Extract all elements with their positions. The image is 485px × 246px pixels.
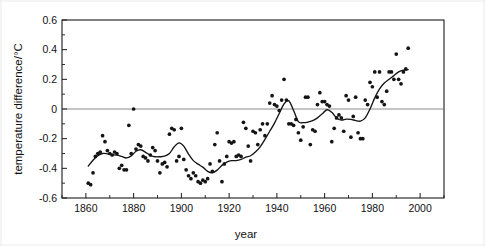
y-tick-label: -0.2 <box>39 132 57 144</box>
data-point <box>297 131 301 135</box>
data-point <box>306 95 310 99</box>
x-tick-label: 1880 <box>122 202 146 214</box>
data-point <box>244 126 248 130</box>
data-point <box>91 171 95 175</box>
data-point <box>189 177 193 181</box>
data-point <box>406 46 410 50</box>
data-point <box>168 132 172 136</box>
data-point <box>132 107 136 111</box>
data-point <box>337 113 341 117</box>
y-axis-ticks <box>62 20 67 198</box>
data-point <box>106 149 110 153</box>
data-point <box>206 177 210 181</box>
x-tick-label: 1860 <box>74 202 98 214</box>
data-point <box>361 137 365 141</box>
data-point <box>239 155 243 159</box>
data-point <box>349 135 353 139</box>
data-point <box>354 95 358 99</box>
data-point <box>151 146 155 150</box>
data-point <box>153 149 157 153</box>
data-point <box>225 155 229 159</box>
data-point <box>103 140 107 144</box>
data-point <box>397 77 401 81</box>
data-point <box>184 168 188 172</box>
data-point <box>373 70 377 74</box>
data-point <box>120 164 124 168</box>
data-point <box>385 89 389 93</box>
data-point <box>182 158 186 162</box>
data-point <box>144 156 148 160</box>
data-point <box>156 159 160 163</box>
x-tick-label: 1960 <box>313 202 337 214</box>
data-point <box>382 103 386 107</box>
data-point <box>282 77 286 81</box>
y-tick-label: -0.4 <box>39 162 57 174</box>
data-point <box>254 131 258 135</box>
chart-figure: 18601880190019201940196019802000 0.60.40… <box>0 0 485 246</box>
data-point <box>356 131 360 135</box>
data-point <box>342 129 346 133</box>
data-point <box>125 168 129 172</box>
data-point <box>265 122 269 126</box>
y-tick-label: 0.6 <box>42 14 57 26</box>
x-axis-tick-labels: 18601880190019201940196019802000 <box>74 202 432 214</box>
data-point <box>117 166 121 170</box>
data-point <box>258 128 262 132</box>
data-point <box>313 129 317 133</box>
data-point <box>366 103 370 107</box>
data-point <box>139 144 143 148</box>
data-point <box>101 134 105 138</box>
data-point <box>318 91 322 95</box>
data-point <box>249 159 253 163</box>
data-point <box>301 125 305 129</box>
x-axis-ticks <box>62 193 444 198</box>
data-point <box>194 174 198 178</box>
y-axis-tick-labels: 0.60.40.20-0.2-0.4-0.6 <box>39 14 57 204</box>
smoothed-trend-curve <box>88 70 408 173</box>
data-point <box>270 94 274 98</box>
data-point <box>328 104 332 108</box>
data-point <box>158 171 162 175</box>
x-tick-label: 1980 <box>361 202 385 214</box>
data-point <box>215 131 219 135</box>
data-point <box>163 161 167 165</box>
data-point <box>246 144 250 148</box>
y-axis-title: temperature difference/°C <box>12 43 24 175</box>
data-point <box>256 143 260 147</box>
data-point <box>146 159 150 163</box>
y-tick-label: 0.2 <box>42 73 57 85</box>
data-point <box>280 98 284 102</box>
data-point <box>371 85 375 89</box>
data-point <box>232 140 236 144</box>
data-point <box>332 126 336 130</box>
temperature-anomaly-scatter-chart: 18601880190019201940196019802000 0.60.40… <box>0 0 485 246</box>
y-tick-label: 0 <box>51 103 57 115</box>
data-point <box>268 101 272 105</box>
data-point <box>208 162 212 166</box>
data-point <box>394 52 398 56</box>
x-tick-label: 2000 <box>408 202 432 214</box>
data-point <box>323 100 327 104</box>
data-point <box>330 140 334 144</box>
data-point <box>89 183 93 187</box>
data-points-layer <box>86 46 410 186</box>
data-point <box>292 123 296 127</box>
data-point <box>172 128 176 132</box>
data-point <box>344 94 348 98</box>
data-point <box>187 174 191 178</box>
data-point <box>180 126 184 130</box>
data-point <box>368 80 372 84</box>
data-point <box>378 70 382 74</box>
x-axis-title: year <box>235 228 258 240</box>
data-point <box>351 115 355 119</box>
y-tick-label: 0.4 <box>42 43 57 55</box>
data-point <box>213 143 217 147</box>
data-point <box>191 171 195 175</box>
data-point <box>299 138 303 142</box>
x-tick-label: 1940 <box>265 202 289 214</box>
x-tick-label: 1900 <box>170 202 194 214</box>
data-point <box>177 155 181 159</box>
data-point <box>399 82 403 86</box>
data-point <box>347 98 351 102</box>
data-point <box>380 100 384 104</box>
